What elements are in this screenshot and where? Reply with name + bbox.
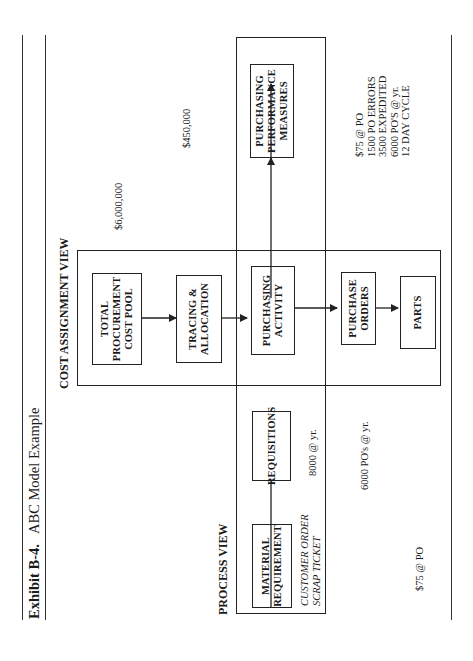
performance-metrics: $75 @ PO 1500 PO ERRORS 3500 EXPEDITED 6… (354, 76, 412, 157)
box-line: ACTIVITY (273, 275, 285, 347)
exhibit-page: Exhibit B-4. ABC Model Example COST ASSI… (0, 0, 473, 661)
box-line: COST POOL (123, 277, 135, 362)
box-line: PURCHASING (261, 275, 273, 347)
purchasing-performance-measures-box: PURCHASING PERFORMANCE MEASURES (250, 64, 294, 158)
po-volume: 6000 PO's @ yr. (359, 421, 371, 490)
purchasing-activity-box: PURCHASING ACTIVITY (251, 266, 295, 355)
metric-line: $75 @ PO (354, 76, 366, 157)
box-line: PERFORMANCE (266, 69, 278, 153)
purchase-orders-box: PURCHASE ORDERS (341, 272, 376, 345)
material-requirement-box: MATERIAL REQUIREMENT (252, 524, 292, 608)
trigger-documents: CUSTOMER ORDER SCRAP TICKET (299, 514, 322, 606)
box-line: REQUIREMENT (272, 525, 284, 607)
box-line: MATERIAL (260, 525, 272, 607)
requisitions-box: REQUISITIONS (252, 411, 291, 481)
tracing-allocation-box: TRACING & ALLOCATION (176, 275, 222, 363)
box-line: MEASURES (278, 69, 290, 153)
metric-line: 1500 PO ERRORS (366, 76, 378, 157)
activity-cost-annotation: $450,000 (181, 109, 193, 148)
box-line: TOTAL (99, 277, 111, 362)
box-line: TRACING & (187, 283, 199, 355)
parts-box: PARTS (400, 276, 436, 349)
box-line: PARTS (412, 296, 424, 330)
metric-line: 12 DAY CYCLE (400, 76, 412, 157)
trigger-line: CUSTOMER ORDER (299, 514, 311, 606)
box-line: ALLOCATION (199, 283, 211, 355)
metric-line: 3500 EXPEDITED (377, 76, 389, 157)
total-cost-annotation: $6,000,000 (113, 183, 125, 230)
cost-per-po: $75 @ PO (414, 547, 426, 591)
trigger-line: SCRAP TICKET (311, 514, 323, 606)
requisitions-volume: 8000 @ yr. (307, 429, 319, 476)
box-line: PURCHASE (347, 279, 359, 338)
total-procurement-cost-pool-box: TOTAL PROCUREMENT COST POOL (92, 273, 142, 365)
metric-line: 6000 PO'S @ yr. (389, 76, 401, 157)
box-line: PROCUREMENT (111, 277, 123, 362)
box-line: REQUISITIONS (266, 407, 278, 485)
box-line: PURCHASING (254, 69, 266, 153)
box-line: ORDERS (359, 279, 371, 338)
